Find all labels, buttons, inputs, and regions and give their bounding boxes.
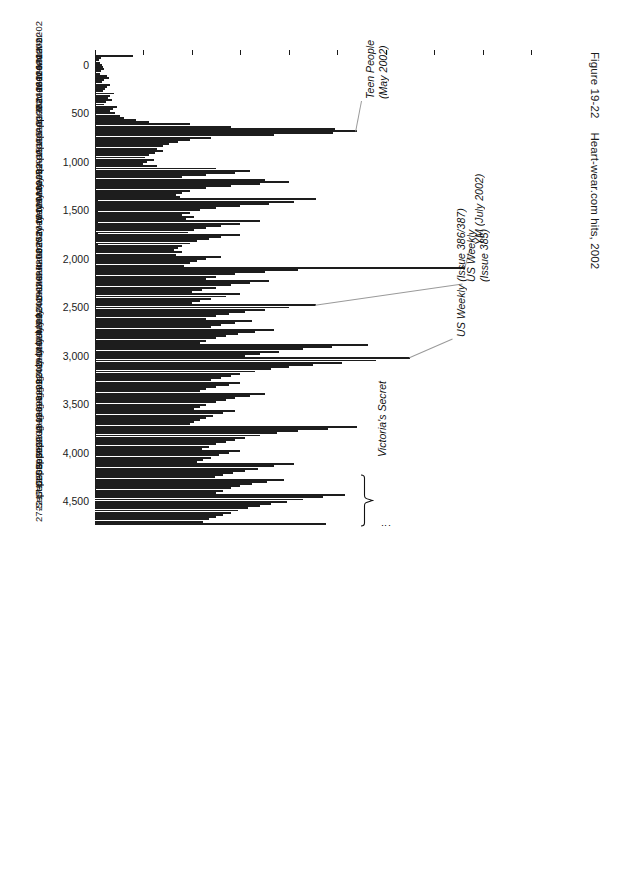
annotation-line-2: (May 2002) xyxy=(377,40,390,99)
value-tick-label: 2,000 xyxy=(63,253,89,265)
victorias-secret-brace xyxy=(360,474,374,527)
category-tick xyxy=(95,409,98,410)
category-tick xyxy=(95,332,98,333)
value-tick xyxy=(240,50,241,55)
annotation-us-weekly-386-387: US Weekly (Issue 386/387) xyxy=(455,209,468,338)
annotation-leader-line xyxy=(315,284,462,306)
category-tick xyxy=(95,133,98,134)
category-tick xyxy=(95,200,98,201)
category-tick xyxy=(95,321,98,322)
figure-number: Figure 19-22 xyxy=(589,52,601,118)
annotation-ellipsis: ⋮ xyxy=(380,519,393,531)
annotation-teen-people: Teen People(May 2002) xyxy=(364,40,389,99)
category-tick xyxy=(95,67,98,68)
annotation-leader-line xyxy=(409,339,453,359)
category-tick xyxy=(95,442,98,443)
category-tick xyxy=(95,508,98,509)
figure: Figure 19-22Heart-wear.com hits, 2002 4,… xyxy=(0,0,623,883)
category-tick xyxy=(95,376,98,377)
category-tick xyxy=(95,354,98,355)
category-tick xyxy=(95,486,98,487)
value-tick xyxy=(434,50,435,55)
category-tick xyxy=(95,277,98,278)
category-tick xyxy=(95,299,98,300)
category-tick xyxy=(95,431,98,432)
value-tick-label: 500 xyxy=(71,107,89,119)
category-tick xyxy=(95,144,98,145)
value-tick-label: 2,500 xyxy=(63,301,89,313)
annotation-victorias-secret: Victoria's Secret xyxy=(376,381,389,457)
category-tick xyxy=(95,453,98,454)
category-tick xyxy=(95,222,98,223)
value-tick xyxy=(337,50,338,55)
value-tick-label: 1,500 xyxy=(63,204,89,216)
value-tick xyxy=(483,50,484,55)
category-tick xyxy=(95,244,98,245)
value-tick-label: 3,500 xyxy=(63,398,89,410)
category-tick xyxy=(95,100,98,101)
category-tick xyxy=(95,497,98,498)
category-tick xyxy=(95,89,98,90)
figure-title: Heart-wear.com hits, 2002 xyxy=(589,132,601,269)
category-tick xyxy=(95,475,98,476)
value-tick-label: 4,500 xyxy=(63,495,89,507)
category-tick xyxy=(95,155,98,156)
value-tick xyxy=(289,50,290,55)
value-tick xyxy=(192,50,193,55)
annotation-line-1: Victoria's Secret xyxy=(376,381,389,457)
category-tick xyxy=(95,398,98,399)
figure-caption: Figure 19-22Heart-wear.com hits, 2002 xyxy=(589,52,601,269)
annotation-us-weekly-385: US Weekly(Issue 385) xyxy=(465,229,490,282)
value-tick-label: 3,000 xyxy=(63,350,89,362)
value-tick xyxy=(143,50,144,55)
category-tick xyxy=(95,211,98,212)
category-tick xyxy=(95,111,98,112)
category-tick xyxy=(95,78,98,79)
category-tick xyxy=(95,420,98,421)
category-tick xyxy=(95,56,98,57)
category-tick xyxy=(95,122,98,123)
category-tick xyxy=(95,166,98,167)
figure-canvas: Figure 19-22Heart-wear.com hits, 2002 4,… xyxy=(0,0,623,883)
annotation-line-2: (Issue 385) xyxy=(478,229,491,282)
category-tick xyxy=(95,255,98,256)
category-tick xyxy=(95,387,98,388)
category-tick xyxy=(95,288,98,289)
category-tick xyxy=(95,188,98,189)
value-tick-label: 1,000 xyxy=(63,156,89,168)
value-tick xyxy=(95,50,96,55)
value-tick xyxy=(531,50,532,55)
value-tick-label: 0 xyxy=(83,59,89,71)
category-tick xyxy=(95,266,98,267)
category-tick xyxy=(95,519,98,520)
category-tick xyxy=(95,365,98,366)
category-tick xyxy=(95,343,98,344)
category-tick xyxy=(95,464,98,465)
category-tick xyxy=(95,177,98,178)
value-tick-label: 4,000 xyxy=(63,447,89,459)
annotation-line-1: Teen People xyxy=(364,40,377,99)
category-tick xyxy=(95,233,98,234)
bar xyxy=(95,523,326,525)
category-tick-label: 27-Sept-02 xyxy=(33,476,44,522)
annotation-line-1: US Weekly (Issue 386/387) xyxy=(455,209,468,338)
plot-area: 4,5004,0003,5003,0002,5002,0001,5001,000… xyxy=(95,55,565,491)
category-tick xyxy=(95,310,98,311)
annotation-leader-line xyxy=(356,101,363,131)
